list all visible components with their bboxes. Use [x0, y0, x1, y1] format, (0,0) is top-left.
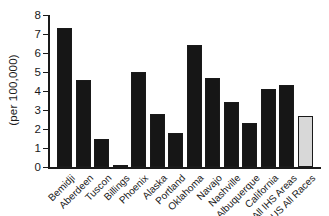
bar — [150, 114, 165, 167]
bar — [261, 89, 276, 167]
y-axis-title: (per 100,000) — [7, 40, 19, 140]
y-tick-label: 3 — [27, 105, 41, 117]
bar-chart-figure: (per 100,000) 012345678BemidjiAberdeenTu… — [0, 0, 329, 216]
bar — [298, 116, 313, 167]
y-tick-label: 0 — [27, 162, 41, 174]
bar — [76, 80, 91, 167]
bar — [242, 123, 257, 167]
y-tick — [43, 53, 48, 54]
y-tick-label: 4 — [27, 86, 41, 98]
y-axis-line — [48, 15, 50, 168]
bar — [279, 85, 294, 167]
y-tick — [43, 148, 48, 149]
y-tick-label: 7 — [27, 29, 41, 41]
bar — [94, 139, 109, 168]
y-tick-label: 6 — [27, 48, 41, 60]
y-tick — [43, 129, 48, 130]
x-axis-line — [48, 167, 321, 169]
bar — [205, 78, 220, 167]
y-tick — [43, 110, 48, 111]
y-tick — [43, 167, 48, 168]
y-tick-label: 1 — [27, 143, 41, 155]
bar — [224, 102, 239, 167]
y-tick-label: 8 — [27, 10, 41, 22]
y-tick — [43, 34, 48, 35]
bar — [57, 28, 72, 167]
y-tick — [43, 91, 48, 92]
bar — [113, 165, 128, 167]
bar — [131, 72, 146, 167]
y-tick-label: 2 — [27, 124, 41, 136]
y-tick-label: 5 — [27, 67, 41, 79]
bar — [187, 45, 202, 167]
y-tick — [43, 15, 48, 16]
bar — [168, 133, 183, 167]
y-tick — [43, 72, 48, 73]
